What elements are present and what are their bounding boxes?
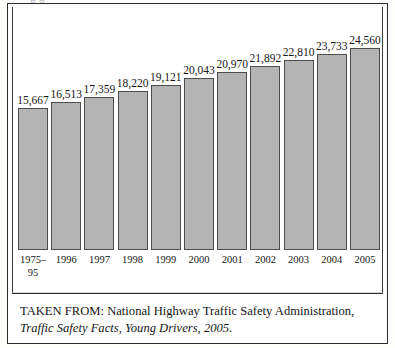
x-axis-tick-label: 2000 xyxy=(189,254,210,267)
x-axis-tick-label: 2004 xyxy=(321,254,342,267)
caption-publication-title: Traffic Safety Facts, Young Drivers, 200… xyxy=(20,321,229,335)
bar[interactable] xyxy=(151,85,181,250)
x-axis-tick-label: 1997 xyxy=(89,254,110,267)
bar-series: 15,6671975– 9516,513199617,359199718,220… xyxy=(13,8,382,292)
bar-value-label: 19,121 xyxy=(150,71,182,83)
x-axis-tick-label: 2002 xyxy=(255,254,276,267)
bar-value-label: 16,513 xyxy=(50,88,82,100)
bar[interactable] xyxy=(250,66,280,250)
figure-container: g g 15,6671975– 9516,513199617,359199718… xyxy=(0,0,395,348)
caption-suffix: . xyxy=(229,321,232,335)
bar-value-label: 22,810 xyxy=(283,46,315,58)
figure-source-caption: TAKEN FROM: National Highway Traffic Saf… xyxy=(20,303,372,337)
bar[interactable] xyxy=(317,54,347,250)
caption-prefix: TAKEN FROM: National Highway Traffic Saf… xyxy=(20,304,354,318)
chart-plot-area: 15,6671975– 9516,513199617,359199718,220… xyxy=(13,8,382,292)
bar[interactable] xyxy=(18,108,48,250)
bar[interactable] xyxy=(284,60,314,250)
bar-slot: 20,9702001 xyxy=(217,72,247,250)
bar-slot: 24,5602005 xyxy=(350,48,380,250)
bar-slot: 17,3591997 xyxy=(84,97,114,250)
x-axis-tick-label: 1998 xyxy=(122,254,143,267)
bar-slot: 20,0432000 xyxy=(184,78,214,250)
bar-value-label: 15,667 xyxy=(17,94,49,106)
x-axis-tick-label: 2003 xyxy=(288,254,309,267)
x-axis-tick-label: 1999 xyxy=(155,254,176,267)
bar-value-label: 20,970 xyxy=(216,58,248,70)
bar-value-label: 24,560 xyxy=(349,34,381,46)
x-axis-tick-label: 1975– 95 xyxy=(20,254,46,279)
bar-slot: 16,5131996 xyxy=(51,102,81,250)
bar-value-label: 18,220 xyxy=(117,77,149,89)
caption-divider xyxy=(12,293,383,294)
bar[interactable] xyxy=(84,97,114,250)
bar-value-label: 20,043 xyxy=(183,64,215,76)
x-axis-tick-label: 2005 xyxy=(355,254,376,267)
bar[interactable] xyxy=(51,102,81,250)
x-axis-tick-label: 2001 xyxy=(222,254,243,267)
bar[interactable] xyxy=(350,48,380,250)
bar-value-label: 17,359 xyxy=(84,83,116,95)
bar-slot: 15,6671975– 95 xyxy=(18,108,48,250)
x-axis-tick-label: 1996 xyxy=(56,254,77,267)
bar[interactable] xyxy=(184,78,214,250)
bar-slot: 22,8102003 xyxy=(284,60,314,250)
bar[interactable] xyxy=(217,72,247,250)
bar-value-label: 21,892 xyxy=(250,52,282,64)
bar-slot: 18,2201998 xyxy=(118,91,148,250)
bar-value-label: 23,733 xyxy=(316,40,348,52)
bar-slot: 23,7332004 xyxy=(317,54,347,250)
bar-slot: 19,1211999 xyxy=(151,85,181,250)
bar-slot: 21,8922002 xyxy=(250,66,280,250)
bar[interactable] xyxy=(118,91,148,250)
